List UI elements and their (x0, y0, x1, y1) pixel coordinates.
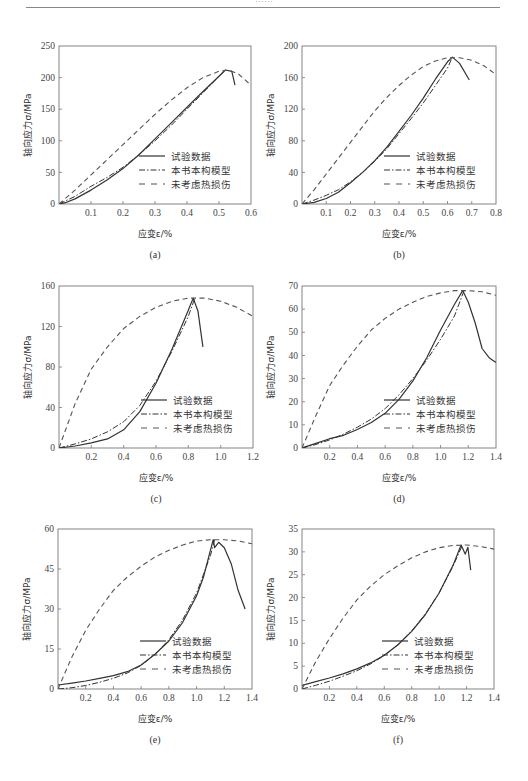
y-tick-label: 25 (289, 570, 299, 580)
x-tick-label: 0.8 (406, 693, 418, 703)
y-tick-label: 60 (289, 304, 299, 314)
x-tick-label: 1.2 (461, 693, 473, 703)
y-axis-label: 轴向应力σ/MPa (22, 93, 33, 156)
x-axis-label: 应变ε/% (381, 713, 416, 724)
y-tick-label: 0 (50, 443, 55, 453)
y-tick-label: 150 (41, 104, 56, 114)
y-tick-label: 50 (289, 327, 299, 337)
y-tick-label: 0 (293, 684, 298, 694)
panel-label: (d) (393, 493, 405, 505)
y-tick-label: 80 (46, 362, 56, 372)
legend-label: 未考虑热损伤 (416, 423, 476, 434)
x-tick-label: 1.4 (490, 452, 502, 462)
x-tick-label: 0.4 (351, 452, 363, 462)
x-tick-label: 0.1 (320, 208, 332, 218)
legend-label: 试验数据 (172, 636, 212, 647)
panel-label: (b) (393, 249, 405, 261)
x-tick-label: 0.2 (117, 208, 129, 218)
x-tick-label: 0.3 (369, 208, 381, 218)
x-tick-label: 1.4 (246, 693, 258, 703)
chart-panel-c: 040801201600.20.40.60.81.01.2轴向应力σ/MPa应变… (22, 281, 259, 505)
legend-label: 本书本构模型 (416, 409, 476, 420)
y-tick-label: 10 (289, 638, 299, 648)
y-tick-label: 40 (289, 168, 299, 178)
x-tick-label: 0.6 (379, 452, 391, 462)
chart-panel-a: 0501001502002500.10.20.30.40.50.6轴向应力σ/M… (22, 41, 257, 261)
x-tick-label: 1.0 (191, 693, 203, 703)
x-tick-label: 0.6 (135, 693, 147, 703)
x-tick-label: 0.4 (351, 693, 363, 703)
y-axis-label: 轴向应力σ/MPa (265, 335, 276, 398)
x-tick-label: 1.2 (247, 452, 259, 462)
legend-label: 试验数据 (414, 636, 454, 647)
y-tick-label: 200 (41, 73, 56, 83)
y-tick-label: 15 (45, 644, 55, 654)
legend: 试验数据本书本构模型未考虑热损伤 (382, 636, 474, 675)
y-axis-label: 轴向应力σ/MPa (22, 335, 33, 398)
y-axis-label: 轴向应力σ/MPa (21, 577, 32, 640)
x-tick-label: 0.8 (407, 452, 419, 462)
x-tick-label: 0.4 (107, 693, 119, 703)
y-tick-label: 70 (289, 281, 299, 291)
x-tick-label: 0.8 (163, 693, 175, 703)
y-tick-label: 30 (289, 374, 299, 384)
x-tick-label: 0.6 (150, 452, 162, 462)
x-tick-label: 0.2 (80, 693, 92, 703)
figure-panels: 0501001502002500.10.20.30.40.50.6轴向应力σ/M… (0, 0, 528, 781)
legend-label: 本书本构模型 (172, 650, 232, 661)
legend-label: 本书本构模型 (171, 165, 231, 176)
y-tick-label: 200 (284, 41, 299, 51)
y-tick-label: 15 (289, 616, 299, 626)
y-tick-label: 250 (41, 41, 56, 51)
legend-label: 本书本构模型 (416, 165, 476, 176)
x-tick-label: 0.5 (417, 208, 429, 218)
x-axis-label: 应变ε/% (139, 472, 174, 483)
y-tick-label: 5 (293, 661, 298, 671)
chart-panel-b: 040801201602000.10.20.30.40.50.60.70.8轴向… (265, 41, 502, 261)
x-tick-label: 0.8 (182, 452, 194, 462)
y-tick-label: 30 (45, 604, 55, 614)
panel-label: (c) (150, 493, 161, 505)
y-axis-label: 轴向应力σ/MPa (265, 577, 276, 640)
y-tick-label: 0 (293, 199, 298, 209)
x-tick-label: 0.5 (213, 208, 225, 218)
x-tick-label: 0.1 (85, 208, 97, 218)
chart-panel-e: 0153045600.20.40.60.81.01.21.4轴向应力σ/MPa应… (21, 524, 258, 746)
legend-label: 未考虑热损伤 (172, 664, 232, 675)
x-tick-label: 0.3 (149, 208, 161, 218)
x-tick-label: 0.4 (393, 208, 405, 218)
x-tick-label: 0.2 (345, 208, 357, 218)
x-tick-label: 1.0 (433, 693, 445, 703)
legend-label: 未考虑热损伤 (416, 179, 476, 190)
y-tick-label: 40 (289, 351, 299, 361)
x-tick-label: 1.4 (488, 693, 500, 703)
y-axis-label: 轴向应力σ/MPa (265, 93, 276, 156)
y-tick-label: 40 (46, 403, 56, 413)
panel-label: (e) (149, 734, 160, 746)
y-tick-label: 50 (46, 168, 56, 178)
y-tick-label: 20 (289, 397, 299, 407)
y-tick-label: 100 (41, 136, 56, 146)
legend: 试验数据本书本构模型未考虑热损伤 (140, 636, 232, 675)
x-axis-label: 应变ε/% (382, 472, 417, 483)
legend-label: 本书本构模型 (414, 650, 474, 661)
x-tick-label: 0.2 (85, 452, 97, 462)
y-tick-label: 80 (289, 136, 299, 146)
x-tick-label: 1.2 (218, 693, 230, 703)
legend: 试验数据本书本构模型未考虑热损伤 (139, 151, 231, 190)
y-tick-label: 120 (41, 322, 56, 332)
x-axis-label: 应变ε/% (382, 228, 417, 239)
legend: 试验数据本书本构模型未考虑热损伤 (141, 395, 233, 434)
y-tick-label: 160 (41, 281, 56, 291)
y-tick-label: 45 (45, 564, 55, 574)
x-tick-label: 1.0 (435, 452, 447, 462)
legend-label: 本书本构模型 (173, 409, 233, 420)
x-tick-label: 1.2 (462, 452, 474, 462)
legend-label: 试验数据 (171, 151, 211, 162)
x-tick-label: 0.6 (378, 693, 390, 703)
y-tick-label: 0 (293, 443, 298, 453)
legend-label: 试验数据 (416, 395, 456, 406)
legend-label: 未考虑热损伤 (414, 664, 474, 675)
legend: 试验数据本书本构模型未考虑热损伤 (384, 395, 476, 434)
y-tick-label: 120 (284, 104, 299, 114)
